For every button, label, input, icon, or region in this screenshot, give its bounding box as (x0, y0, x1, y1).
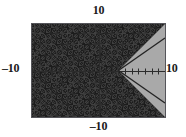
x-max-label: 10 (166, 62, 178, 74)
calculator-screenshot: 10 –10 10 –10 (0, 0, 186, 137)
y-min-label: –10 (0, 120, 186, 132)
graph-plot-canvas (32, 24, 165, 117)
plot-frame (31, 23, 166, 118)
x-min-label: –10 (2, 62, 19, 74)
y-max-label: 10 (0, 4, 186, 16)
